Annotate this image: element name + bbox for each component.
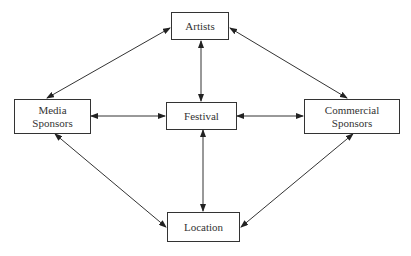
edge-commercial-location bbox=[241, 134, 353, 227]
node-media-line1: Media bbox=[38, 104, 66, 117]
node-commercial-line1: Commercial bbox=[325, 104, 379, 117]
node-artists: Artists bbox=[171, 12, 229, 40]
edge-artists-media bbox=[47, 28, 170, 98]
node-artists-label: Artists bbox=[185, 20, 214, 33]
node-media-sponsors: Media Sponsors bbox=[14, 99, 91, 134]
node-location-label: Location bbox=[184, 221, 223, 234]
node-festival: Festival bbox=[166, 102, 237, 130]
node-commercial-sponsors: Commercial Sponsors bbox=[304, 99, 400, 134]
node-media-line2: Sponsors bbox=[32, 117, 72, 130]
edge-artists-commercial bbox=[230, 28, 347, 98]
node-festival-label: Festival bbox=[184, 110, 219, 123]
node-location: Location bbox=[167, 212, 240, 242]
edge-media-location bbox=[55, 134, 166, 227]
node-commercial-line2: Sponsors bbox=[332, 117, 372, 130]
